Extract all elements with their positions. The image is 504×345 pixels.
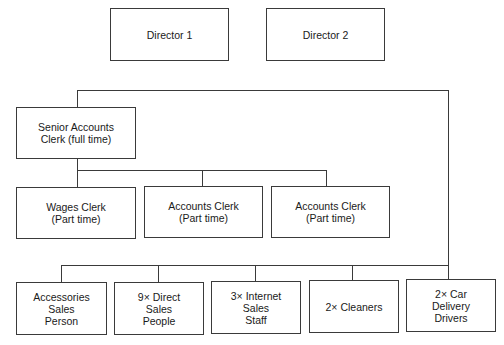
direct-sales-box: 9× Direct Sales People [114, 282, 204, 335]
internet-sales-label: 3× Internet Sales Staff [231, 290, 282, 326]
accounts-clerk-2-label: Accounts Clerk (Part time) [295, 200, 366, 224]
senior-down-line [77, 159, 78, 187]
accounts-clerk-1-connector [202, 170, 203, 186]
accessories-sales-box: Accessories Sales Person [16, 282, 107, 335]
delivery-drivers-label: 2× Car Delivery Drivers [432, 288, 470, 324]
wages-clerk-box: Wages Clerk (Part time) [16, 187, 136, 239]
director-2-box: Director 2 [266, 8, 385, 61]
director-1-label: Director 1 [147, 29, 193, 41]
cleaners-connector [352, 265, 353, 280]
cleaners-label: 2× Cleaners [326, 301, 383, 313]
wages-clerk-label: Wages Clerk (Part time) [46, 201, 106, 225]
direct-sales-label: 9× Direct Sales People [138, 291, 180, 327]
accounts-clerk-1-box: Accounts Clerk (Part time) [144, 186, 263, 238]
direct-sales-connector [158, 265, 159, 282]
accessories-sales-label: Accessories Sales Person [33, 291, 90, 327]
right-trunk-line [448, 90, 449, 279]
senior-accounts-clerk-label: Senior Accounts Clerk (full time) [38, 121, 114, 145]
director-2-label: Director 2 [303, 29, 349, 41]
accounts-clerk-2-box: Accounts Clerk (Part time) [271, 186, 390, 238]
delivery-drivers-box: 2× Car Delivery Drivers [406, 279, 496, 332]
internet-sales-box: 3× Internet Sales Staff [211, 281, 301, 334]
accounts-clerk-2-connector [326, 170, 327, 186]
accessories-connector [61, 265, 62, 282]
cleaners-box: 2× Cleaners [309, 280, 399, 333]
accounts-clerk-1-label: Accounts Clerk (Part time) [168, 200, 239, 224]
top-connector-line [77, 90, 449, 91]
senior-accounts-clerk-box: Senior Accounts Clerk (full time) [16, 107, 136, 159]
director-1-box: Director 1 [110, 8, 229, 61]
senior-connector-line [77, 90, 78, 107]
internet-sales-connector [255, 265, 256, 281]
